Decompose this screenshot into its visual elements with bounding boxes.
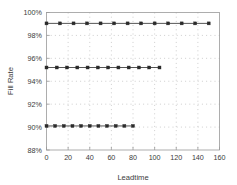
series-marker bbox=[153, 22, 156, 25]
series-marker bbox=[96, 66, 99, 69]
series-marker bbox=[59, 22, 62, 25]
series-marker bbox=[72, 22, 75, 25]
series-marker bbox=[86, 66, 89, 69]
x-tick-label: 20 bbox=[64, 153, 72, 162]
y-tick-label: 100% bbox=[24, 8, 43, 17]
series-marker bbox=[86, 22, 89, 25]
series-marker bbox=[76, 66, 79, 69]
series-marker bbox=[71, 124, 74, 127]
series-marker bbox=[88, 124, 91, 127]
x-tick-label: 100 bbox=[149, 153, 161, 162]
series-marker bbox=[117, 66, 120, 69]
series-marker bbox=[55, 66, 58, 69]
series-marker bbox=[62, 124, 65, 127]
series-marker bbox=[123, 124, 126, 127]
series-marker bbox=[132, 124, 135, 127]
series-marker bbox=[45, 124, 48, 127]
series-marker bbox=[97, 124, 100, 127]
series-marker bbox=[107, 66, 110, 69]
series-marker bbox=[167, 22, 170, 25]
x-tick-label: 60 bbox=[107, 153, 115, 162]
series-marker bbox=[126, 22, 129, 25]
series-marker bbox=[137, 66, 140, 69]
series-marker bbox=[106, 124, 109, 127]
y-tick-label: 94% bbox=[28, 77, 43, 86]
x-tick-label: 160 bbox=[214, 153, 226, 162]
series-marker bbox=[114, 124, 117, 127]
x-tick-label: 140 bbox=[192, 153, 204, 162]
chart-figure: 88%90%92%94%96%98%100% 02040608010012014… bbox=[0, 0, 237, 185]
series-marker bbox=[207, 22, 210, 25]
series-marker bbox=[45, 22, 48, 25]
series-marker bbox=[99, 22, 102, 25]
series-marker bbox=[45, 66, 48, 69]
y-tick-label: 98% bbox=[28, 31, 43, 40]
series-marker bbox=[113, 22, 116, 25]
series-marker bbox=[180, 22, 183, 25]
series-marker bbox=[54, 124, 57, 127]
y-axis-title: Fill Rate bbox=[6, 67, 15, 95]
y-tick-label: 96% bbox=[28, 54, 43, 63]
fill-rate-vs-leadtime-chart: 88%90%92%94%96%98%100% 02040608010012014… bbox=[0, 0, 237, 185]
series-marker bbox=[158, 66, 161, 69]
series-marker bbox=[194, 22, 197, 25]
y-tick-label: 88% bbox=[28, 146, 43, 155]
x-tick-label: 0 bbox=[45, 153, 49, 162]
series-marker bbox=[127, 66, 130, 69]
x-axis-title: Leadtime bbox=[117, 173, 148, 182]
x-tick-label: 120 bbox=[170, 153, 182, 162]
series-marker bbox=[80, 124, 83, 127]
y-tick-label: 90% bbox=[28, 123, 43, 132]
x-tick-label: 40 bbox=[86, 153, 94, 162]
x-tick-label: 80 bbox=[129, 153, 137, 162]
series-marker bbox=[140, 22, 143, 25]
series-marker bbox=[66, 66, 69, 69]
y-tick-label: 92% bbox=[28, 100, 43, 109]
series-marker bbox=[148, 66, 151, 69]
